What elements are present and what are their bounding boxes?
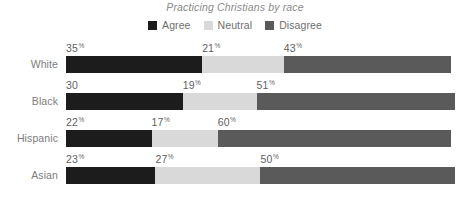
segment-value-label: 22% (66, 116, 84, 128)
legend-label-neutral: Neutral (218, 19, 253, 31)
segment-value-number: 23 (66, 153, 78, 165)
row-category-label: White (0, 58, 58, 70)
segment-value-number: 27 (155, 153, 167, 165)
chart-row: White35%21%43% (0, 40, 470, 77)
legend-swatch-neutral-icon (204, 21, 213, 30)
segment-value-number: 30 (66, 79, 78, 91)
segment-value-percent-sign: % (296, 42, 302, 49)
legend-swatch-agree-icon (148, 21, 157, 30)
bar-segment-disagree[interactable] (284, 56, 451, 73)
legend-item-agree[interactable]: Agree (148, 19, 191, 31)
segment-value-percent-sign: % (215, 42, 221, 49)
legend-item-neutral[interactable]: Neutral (204, 19, 253, 31)
bar-value-labels: 35%21%43% (66, 40, 455, 56)
row-category-label: Hispanic (0, 132, 58, 144)
segment-value-percent-sign: % (168, 153, 174, 160)
segment-value-label: 23% (66, 153, 84, 165)
bar-value-labels: 23%27%50% (66, 151, 455, 167)
chart-row: Asian23%27%50% (0, 151, 470, 188)
chart-row: Black3019%51% (0, 77, 470, 114)
legend-swatch-disagree-icon (265, 21, 274, 30)
chart-row: Hispanic22%17%60% (0, 114, 470, 151)
segment-value-label: 50% (261, 153, 279, 165)
legend-item-disagree[interactable]: Disagree (265, 19, 322, 31)
segment-value-number: 21 (202, 42, 214, 54)
bar-segment-agree[interactable] (66, 130, 152, 147)
segment-value-label: 35% (66, 42, 84, 54)
segment-value-percent-sign: % (78, 116, 84, 123)
segment-value-number: 17 (152, 116, 164, 128)
stacked-bar (66, 93, 455, 110)
stacked-bar (66, 56, 455, 73)
segment-value-label: 30 (66, 79, 78, 91)
legend-label-agree: Agree (162, 19, 191, 31)
segment-value-percent-sign: % (195, 79, 201, 86)
chart-title: Practicing Christians by race (0, 1, 470, 13)
segment-value-number: 43 (284, 42, 296, 54)
segment-value-label: 19% (183, 79, 201, 91)
segment-value-label: 60% (218, 116, 236, 128)
segment-value-number: 60 (218, 116, 230, 128)
segment-value-label: 27% (155, 153, 173, 165)
segment-value-label: 51% (257, 79, 275, 91)
plot-area: White35%21%43%Black3019%51%Hispanic22%17… (0, 40, 470, 200)
segment-value-label: 21% (202, 42, 220, 54)
bar-segment-disagree[interactable] (260, 167, 455, 184)
stacked-bar (66, 130, 455, 147)
segment-value-number: 51 (257, 79, 269, 91)
bar-segment-neutral[interactable] (183, 93, 257, 110)
chart-legend: Agree Neutral Disagree (0, 19, 470, 31)
bar-segment-disagree[interactable] (218, 130, 451, 147)
legend-label-disagree: Disagree (279, 19, 322, 31)
stacked-bar (66, 167, 455, 184)
segment-value-label: 17% (152, 116, 170, 128)
stacked-bar-chart: Practicing Christians by race Agree Neut… (0, 0, 470, 205)
segment-value-number: 50 (261, 153, 273, 165)
segment-value-number: 19 (183, 79, 195, 91)
bar-segment-agree[interactable] (66, 93, 183, 110)
segment-value-number: 22 (66, 116, 78, 128)
bar-segment-disagree[interactable] (257, 93, 455, 110)
segment-value-percent-sign: % (230, 116, 236, 123)
segment-value-percent-sign: % (269, 79, 275, 86)
bar-segment-agree[interactable] (66, 56, 202, 73)
segment-value-number: 35 (66, 42, 78, 54)
bar-segment-neutral[interactable] (202, 56, 284, 73)
bar-segment-agree[interactable] (66, 167, 155, 184)
bar-segment-neutral[interactable] (155, 167, 260, 184)
bar-value-labels: 22%17%60% (66, 114, 455, 130)
segment-value-percent-sign: % (164, 116, 170, 123)
segment-value-percent-sign: % (78, 153, 84, 160)
bar-value-labels: 3019%51% (66, 77, 455, 93)
segment-value-percent-sign: % (273, 153, 279, 160)
row-category-label: Asian (0, 169, 58, 181)
bar-segment-neutral[interactable] (152, 130, 218, 147)
segment-value-label: 43% (284, 42, 302, 54)
segment-value-percent-sign: % (78, 42, 84, 49)
row-category-label: Black (0, 95, 58, 107)
